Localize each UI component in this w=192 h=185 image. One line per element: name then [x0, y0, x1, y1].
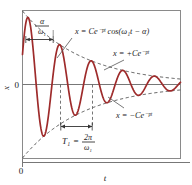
damped-oscillation-figure: x 0 0 t α ω₁ x = Ce⁻ᵖᵗ cos(ω₁t − α) x = …: [0, 0, 192, 185]
y-axis-zero-label: 0: [15, 80, 20, 90]
main-curve-equation-label: x = Ce⁻ᵖᵗ cos(ω₁t − α): [74, 27, 149, 36]
figure-svg: x 0 0 t α ω₁ x = Ce⁻ᵖᵗ cos(ω₁t − α) x = …: [0, 0, 192, 185]
upper-envelope-equation-label: x = +Ce⁻ᵖᵗ: [112, 49, 150, 58]
lower-envelope-equation-label: x = −Ce⁻ᵖᵗ: [115, 111, 153, 120]
y-axis-label: x: [1, 86, 11, 91]
period-numerator: 2π: [84, 133, 93, 142]
phase-shift-denominator: ω₁: [38, 27, 46, 36]
period-denominator: ω₁: [84, 143, 92, 152]
period-symbol-label: T₁: [62, 136, 70, 146]
period-equals-sign: =: [73, 136, 78, 146]
origin-label: 0: [19, 166, 24, 176]
